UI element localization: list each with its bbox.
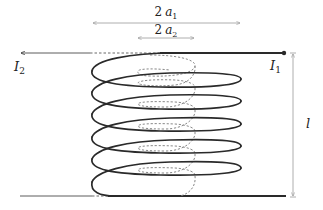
outer-diameter-label: 2a1 — [155, 5, 178, 21]
terminal-dot-icon — [282, 51, 286, 55]
inner-diameter-label: 2a2 — [155, 23, 178, 39]
length-dimension: l — [290, 53, 310, 197]
length-label: l — [306, 116, 310, 131]
coaxial-solenoids-diagram: 2a1 2a2 — [0, 0, 323, 210]
current-i1-label: I1 — [269, 58, 281, 75]
current-i2-label: I2 — [13, 59, 25, 76]
outer-diameter-dimension: 2a1 — [93, 5, 240, 23]
inner-diameter-dimension: 2a2 — [138, 23, 194, 39]
